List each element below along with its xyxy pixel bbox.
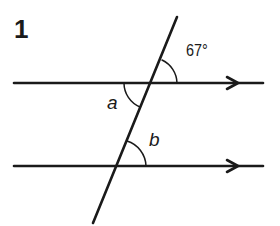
parallel-lines-diagram [0, 0, 280, 226]
angle-a-arc [124, 83, 140, 107]
angle-a-label: a [107, 92, 118, 114]
angle-b-arc [127, 141, 146, 166]
given-angle-label: 67° [186, 41, 208, 61]
transversal-line [93, 17, 177, 223]
angle-67-arc [162, 60, 177, 83]
angle-b-label: b [149, 129, 160, 151]
